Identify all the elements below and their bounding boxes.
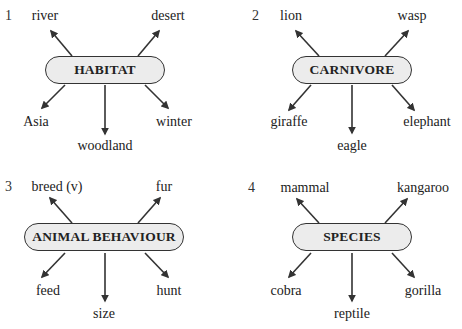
diagram-animal-behaviour: 3 breed (v) fur ANIMAL BEHAVIOUR feed si… <box>0 165 231 329</box>
word-top-right: wasp <box>398 8 427 24</box>
word-top-left: breed (v) <box>32 179 83 195</box>
word-top-right: fur <box>156 179 172 195</box>
center-pill: HABITAT <box>45 56 165 84</box>
word-top-left: lion <box>280 8 302 24</box>
word-bottom-right: gorilla <box>405 283 442 299</box>
center-pill: SPECIES <box>292 223 412 251</box>
diagram-number: 1 <box>5 8 12 24</box>
center-pill: ANIMAL BEHAVIOUR <box>24 223 184 251</box>
word-top-right: kangaroo <box>397 180 449 196</box>
diagram-habitat: 1 river desert HABITAT Asia woodland win… <box>0 0 231 164</box>
diagram-number: 3 <box>5 179 12 195</box>
word-bottom-center: reptile <box>334 306 370 322</box>
diagram-species: 4 mammal kangaroo SPECIES cobra reptile … <box>231 165 462 329</box>
word-top-left: river <box>32 8 58 24</box>
word-bottom-left: cobra <box>270 283 301 299</box>
word-bottom-right: elephant <box>403 114 450 130</box>
word-bottom-left: feed <box>36 283 60 299</box>
word-bottom-right: winter <box>156 114 192 130</box>
word-top-right: desert <box>151 8 184 24</box>
diagram-number: 2 <box>252 8 259 24</box>
word-bottom-left: Asia <box>23 114 49 130</box>
word-bottom-left: giraffe <box>270 114 307 130</box>
word-bottom-center: woodland <box>77 138 132 154</box>
diagram-number: 4 <box>248 180 255 196</box>
word-bottom-right: hunt <box>157 283 182 299</box>
word-bottom-center: size <box>93 306 115 322</box>
center-pill: CARNIVORE <box>292 56 412 84</box>
word-bottom-center: eagle <box>337 138 367 154</box>
diagram-carnivore: 2 lion wasp CARNIVORE giraffe eagle elep… <box>231 0 462 164</box>
word-top-left: mammal <box>281 180 330 196</box>
